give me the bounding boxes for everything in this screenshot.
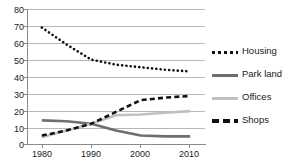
dotted-line-swatch-icon <box>212 51 238 54</box>
series-line-housing <box>42 28 190 72</box>
series-line-park-land <box>42 120 190 136</box>
x-axis-line <box>27 144 206 145</box>
x-axis-tick <box>42 144 43 148</box>
legend-item-park-land: Park land <box>212 67 284 90</box>
y-tick-label: 30 <box>2 91 24 100</box>
x-tick-label: 2010 <box>169 150 209 159</box>
legend-item-offices: Offices <box>212 90 284 113</box>
y-tick-label: 20 <box>2 108 24 117</box>
chart-title <box>30 0 180 4</box>
x-tick-label: 1990 <box>71 150 111 159</box>
y-tick-label: 0 <box>2 141 24 150</box>
x-axis-tick <box>140 144 141 148</box>
y-tick-label: 40 <box>2 74 24 83</box>
x-tick-label: 1980 <box>22 150 62 159</box>
legend-label: Shops <box>242 114 269 125</box>
series-line-offices <box>42 111 190 137</box>
y-axis-labels: 80 70 60 50 40 30 20 10 0 <box>0 0 24 165</box>
x-axis-tick <box>189 144 190 148</box>
chart-legend: Housing Park land Offices Shops <box>212 44 284 136</box>
x-axis-tick <box>91 144 92 148</box>
legend-label: Housing <box>242 45 277 56</box>
legend-label: Offices <box>242 91 271 102</box>
legend-item-shops: Shops <box>212 113 284 136</box>
y-tick-label: 70 <box>2 23 24 32</box>
y-tick-label: 60 <box>2 40 24 49</box>
y-axis-line <box>27 9 28 145</box>
line-chart: 80 70 60 50 40 30 20 10 0 <box>0 0 284 165</box>
solid-dark-line-swatch-icon <box>212 74 238 77</box>
plot-area <box>27 9 205 144</box>
y-tick-label: 10 <box>2 125 24 134</box>
y-tick-label: 80 <box>2 6 24 15</box>
legend-item-housing: Housing <box>212 44 284 67</box>
series-layer <box>27 9 205 144</box>
x-tick-label: 2000 <box>120 150 160 159</box>
dashed-line-swatch-icon <box>212 119 238 123</box>
legend-label: Park land <box>242 68 282 79</box>
solid-light-line-swatch-icon <box>212 97 238 100</box>
y-tick-label: 50 <box>2 57 24 66</box>
